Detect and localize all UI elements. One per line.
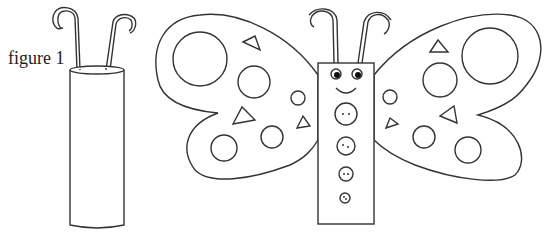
right-wing xyxy=(374,14,541,180)
butterfly-body xyxy=(318,63,374,224)
antennae xyxy=(309,9,391,63)
illustration xyxy=(0,0,546,234)
tube-figure xyxy=(53,8,136,228)
left-wing xyxy=(156,14,318,179)
